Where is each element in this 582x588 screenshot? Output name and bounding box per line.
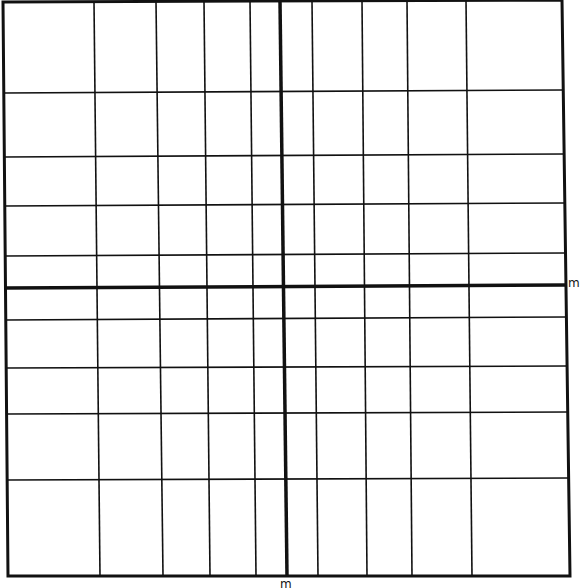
- horizontal-grid-line: [6, 317, 567, 320]
- vertical-grid-line: [407, 1, 412, 576]
- horizontal-grid-line: [5, 253, 565, 256]
- x-axis-label: m: [568, 277, 580, 289]
- x-axis-line: [6, 285, 566, 288]
- horizontal-grid-line: [7, 478, 568, 480]
- horizontal-grid-line: [4, 90, 563, 93]
- horizontal-grid-line: [7, 412, 568, 414]
- vertical-grid-line: [466, 0, 472, 576]
- y-axis-line: [280, 1, 287, 576]
- horizontal-grid-line: [6, 366, 567, 368]
- horizontal-grid-line: [4, 154, 564, 157]
- grid-diagram: [0, 0, 582, 588]
- horizontal-grid-line: [5, 203, 565, 206]
- vertical-grid-line: [312, 1, 318, 576]
- vertical-grid-line: [250, 1, 256, 576]
- vertical-grid-line: [362, 1, 367, 576]
- y-axis-label: m: [280, 578, 292, 588]
